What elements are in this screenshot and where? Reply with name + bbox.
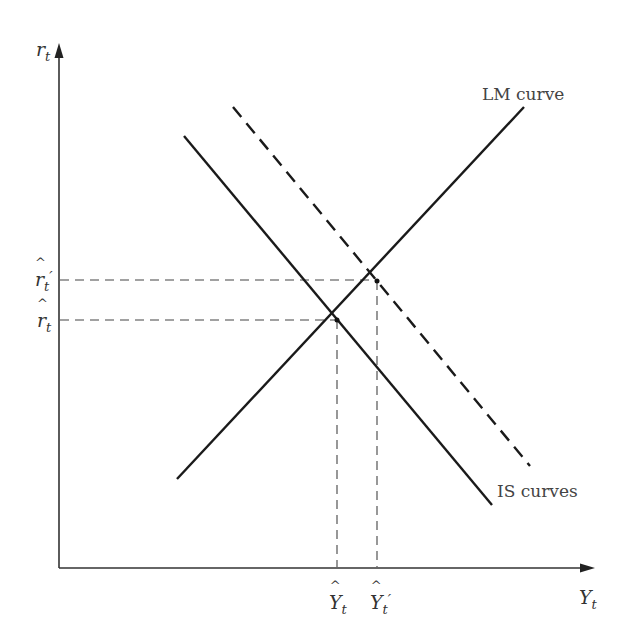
r-symbol: r — [37, 309, 46, 331]
r-symbol: r — [35, 268, 44, 290]
subscript: t — [46, 320, 51, 335]
equilibrium-point-shifted — [375, 279, 380, 284]
x-axis-arrow-icon — [580, 564, 595, 573]
equilibrium-point-original — [335, 318, 340, 323]
lm-curve-label: LM curve — [482, 84, 564, 104]
y-axis-arrow-icon — [55, 43, 64, 58]
r-hat-label: ^rt — [37, 309, 51, 331]
lm-curve — [177, 107, 524, 479]
y-symbol: Y — [370, 591, 383, 613]
x-axis-subscript: t — [592, 597, 597, 612]
hat-mark: ^ — [35, 255, 44, 270]
x-axis-symbol: Y — [579, 586, 592, 608]
y-axis-subscript: t — [45, 49, 50, 64]
is-curves-label: IS curves — [497, 481, 578, 501]
prime-mark: ′ — [49, 268, 52, 286]
prime-mark: ′ — [388, 591, 391, 609]
is-curve-shifted — [233, 107, 530, 466]
hat-mark: ^ — [370, 578, 383, 593]
y-hat-prime-label: ^Yt′ — [370, 591, 391, 613]
x-axis-label: Yt — [579, 586, 597, 608]
y-symbol: Y — [329, 591, 342, 613]
y-axis-symbol: r — [36, 38, 45, 60]
y-axis-label: rt — [36, 38, 50, 60]
hat-mark: ^ — [37, 296, 46, 311]
y-hat-label: ^Yt — [329, 591, 347, 613]
subscript: t — [342, 602, 347, 617]
subscript: t — [383, 602, 388, 617]
hat-mark: ^ — [329, 578, 342, 593]
is-lm-diagram: rt Yt LM curve IS curves ^rt′ ^rt ^Yt ^Y… — [0, 0, 624, 639]
r-hat-prime-label: ^rt′ — [35, 268, 53, 290]
